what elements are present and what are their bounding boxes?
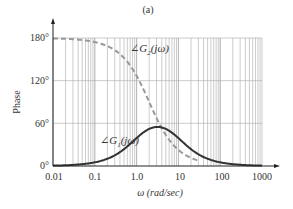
chart-title: (a) bbox=[142, 4, 153, 16]
phase-chart: (a) Phase 180° 120° 60° 0° 0.01 0.1 1.0 … bbox=[0, 0, 293, 209]
x-tick-1000: 1000 bbox=[252, 171, 272, 182]
y-tick-180: 180° bbox=[30, 32, 49, 43]
x-tick-0.01: 0.01 bbox=[45, 171, 63, 182]
x-tick-10: 10 bbox=[175, 171, 185, 182]
x-tick-1.0: 1.0 bbox=[131, 171, 144, 182]
y-tick-0: 0° bbox=[40, 160, 49, 171]
x-tick-0.1: 0.1 bbox=[89, 171, 102, 182]
x-tick-100: 100 bbox=[215, 171, 230, 182]
y-axis-label: Phase bbox=[11, 90, 22, 114]
y-tick-60: 60° bbox=[35, 118, 49, 129]
g1-curve-label: ∠G1(jω) bbox=[100, 134, 139, 149]
x-axis-label: ω (rad/sec) bbox=[137, 187, 183, 199]
g2-curve-label: ∠G2(jω) bbox=[130, 42, 169, 57]
grid-lines bbox=[53, 38, 262, 166]
curves bbox=[53, 38, 262, 165]
y-tick-120: 120° bbox=[30, 75, 49, 86]
g1-phase-curve bbox=[53, 127, 262, 166]
